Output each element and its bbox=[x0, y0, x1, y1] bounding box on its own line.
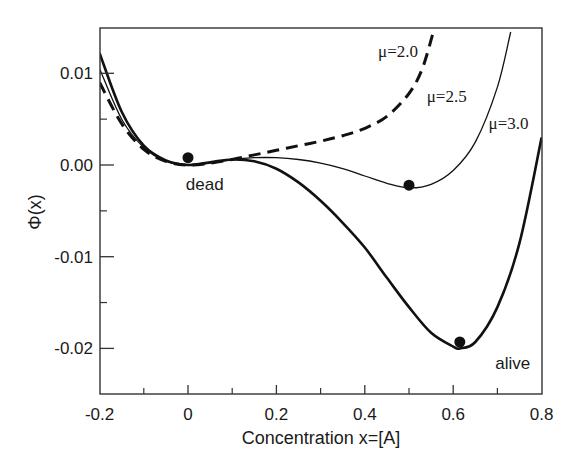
x-tick-label: 0.4 bbox=[353, 405, 377, 424]
x-axis-label: Concentration x=[A] bbox=[242, 428, 401, 448]
y-axis-ticks: 0.010.00-0.01-0.02 bbox=[54, 64, 114, 358]
x-tick-label: -0.2 bbox=[85, 405, 114, 424]
state-marker-dot bbox=[404, 180, 415, 191]
y-tick-label: -0.02 bbox=[54, 339, 93, 358]
x-tick-label: 0.6 bbox=[441, 405, 465, 424]
y-tick-label: 0.00 bbox=[60, 156, 93, 175]
x-tick-label: 0.8 bbox=[530, 405, 554, 424]
curve-annotation: μ=2.5 bbox=[427, 87, 467, 106]
curves-group bbox=[100, 32, 542, 349]
x-tick-label: 0.2 bbox=[265, 405, 289, 424]
state-marker-dot bbox=[183, 152, 194, 163]
y-axis-label: Φ(x) bbox=[25, 194, 45, 229]
annotations-group: μ=2.0μ=2.5μ=3.0deadalive bbox=[186, 42, 530, 373]
x-axis-ticks: -0.200.20.40.60.8 bbox=[85, 385, 553, 424]
state-marker-dot bbox=[454, 337, 465, 348]
x-tick-label: 0 bbox=[183, 405, 192, 424]
curve-2-5 bbox=[100, 32, 511, 188]
curve-annotation: μ=3.0 bbox=[489, 114, 529, 133]
potential-chart: -0.200.20.40.60.8 0.010.00-0.01-0.02 Con… bbox=[0, 0, 571, 467]
curve-3-0 bbox=[100, 53, 542, 349]
y-tick-label: -0.01 bbox=[54, 248, 93, 267]
curve-annotation: μ=2.0 bbox=[378, 42, 418, 61]
y-tick-label: 0.01 bbox=[60, 64, 93, 83]
plot-frame bbox=[100, 28, 542, 394]
curve-annotation: dead bbox=[186, 175, 224, 194]
markers-group bbox=[183, 152, 466, 347]
curve-annotation: alive bbox=[495, 354, 530, 373]
